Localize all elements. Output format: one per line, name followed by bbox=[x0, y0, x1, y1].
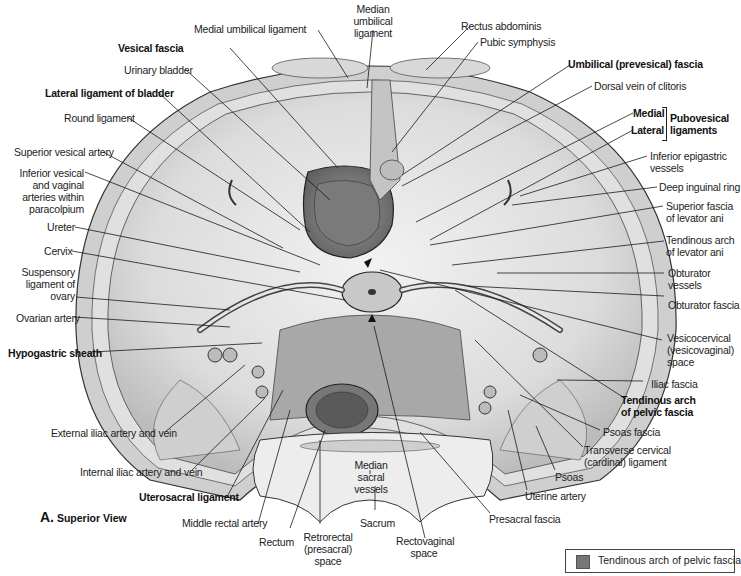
label-urinary-bladder: Urinary bladder bbox=[124, 64, 193, 76]
label-round-ligament: Round ligament bbox=[64, 112, 135, 124]
label-lateral-ligament-of-bladder: Lateral ligament of bladder bbox=[45, 87, 174, 99]
label-pubovesical-lateral: Lateral bbox=[631, 124, 664, 136]
label-pubovesical-medial: Medial bbox=[633, 107, 664, 119]
label-deep-inguinal-ring: Deep inguinal ring bbox=[659, 181, 740, 193]
label-uterine-artery: Uterine artery bbox=[525, 490, 586, 502]
label-rectum: Rectum bbox=[259, 536, 294, 548]
label-psoas: Psoas bbox=[555, 471, 583, 483]
label-obturator-vessels: Obturator vessels bbox=[668, 267, 728, 291]
label-rectovaginal-space: Rectovaginal space bbox=[396, 535, 452, 559]
label-iliac-fascia: Iliac fascia bbox=[651, 378, 698, 390]
label-obturator-fascia: Obturator fascia bbox=[668, 299, 740, 311]
label-middle-rectal-artery: Middle rectal artery bbox=[182, 517, 267, 529]
legend-label: Tendinous arch of pelvic fascia bbox=[598, 554, 741, 566]
label-inferior-epigastric-vessels: Inferior epigastric vessels bbox=[650, 150, 730, 174]
label-transverse-cervical-ligament: Transverse cervical (cardinal) ligament bbox=[584, 444, 674, 468]
label-superior-fascia-of-levator-ani: Superior fascia of levator ani bbox=[666, 200, 736, 224]
label-medial-umbilical-ligament: Medial umbilical ligament bbox=[194, 23, 306, 35]
label-vesical-fascia: Vesical fascia bbox=[118, 42, 184, 54]
label-ovarian-artery: Ovarian artery bbox=[16, 312, 80, 324]
label-median-sacral-vessels: Median sacral vessels bbox=[345, 459, 397, 495]
label-pubic-symphysis: Pubic symphysis bbox=[480, 36, 555, 48]
label-presacral-fascia: Presacral fascia bbox=[489, 513, 561, 525]
legend: Tendinous arch of pelvic fascia bbox=[565, 549, 735, 573]
label-ureter: Ureter bbox=[47, 221, 75, 233]
label-vesicocervical-space: Vesicocervical (vesicovaginal) space bbox=[667, 332, 735, 368]
view-name: Superior View bbox=[57, 512, 127, 524]
label-umbilical-prevesical-fascia: Umbilical (prevesical) fascia bbox=[568, 58, 703, 70]
label-retrorectal-space: Retrorectal (presacral) space bbox=[300, 531, 356, 567]
label-tendinous-arch-of-levator-ani: Tendinous arch of levator ani bbox=[666, 234, 736, 258]
label-suspensory-ligament-of-ovary: Suspensory ligament of ovary bbox=[20, 266, 75, 302]
label-psoas-fascia: Psoas fascia bbox=[603, 426, 660, 438]
label-rectus-abdominis: Rectus abdominis bbox=[461, 20, 541, 32]
legend-swatch bbox=[576, 555, 590, 569]
pubovesical-bracket bbox=[662, 107, 667, 141]
label-uterosacral-ligament: Uterosacral ligament bbox=[139, 491, 239, 503]
label-inferior-vesical-vaginal-arteries: Inferior vesical and vaginal arteries wi… bbox=[6, 167, 84, 215]
rectum bbox=[270, 315, 470, 436]
label-cervix: Cervix bbox=[44, 245, 73, 257]
label-median-umbilical-ligament: Median umbilical ligament bbox=[338, 3, 408, 39]
label-tendinous-arch-of-pelvic-fascia: Tendinous arch of pelvic fascia bbox=[621, 394, 701, 418]
view-letter: A. bbox=[40, 509, 54, 525]
label-dorsal-vein-of-clitoris: Dorsal vein of clitoris bbox=[594, 80, 686, 92]
label-superior-vesical-artery: Superior vesical artery bbox=[14, 146, 114, 158]
label-sacrum: Sacrum bbox=[360, 517, 395, 529]
label-hypogastric-sheath: Hypogastric sheath bbox=[8, 347, 102, 359]
label-internal-iliac-artery-and-vein: Internal iliac artery and vein bbox=[80, 466, 202, 478]
label-external-iliac-artery-and-vein: External iliac artery and vein bbox=[51, 427, 177, 439]
view-title: A. Superior View bbox=[40, 509, 127, 525]
label-pubovesical-ligaments: Pubovesical ligaments bbox=[670, 112, 736, 136]
